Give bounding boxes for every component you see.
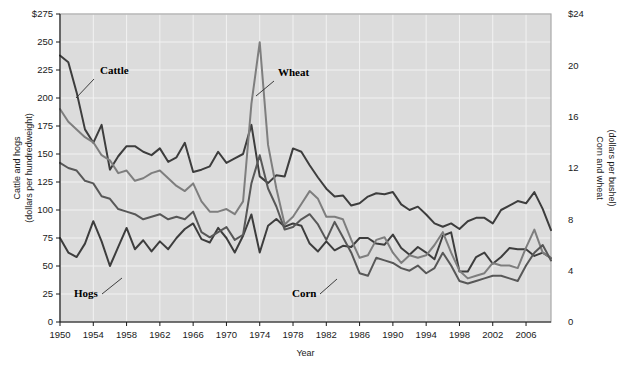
right-axis-tick-label: 16 xyxy=(568,111,579,122)
left-axis-title-line1: Cattle and hogs xyxy=(12,136,22,200)
x-axis-tick-label: 2006 xyxy=(515,329,536,340)
left-axis-tick-label: $275 xyxy=(32,8,53,19)
x-axis-tick-label: 1974 xyxy=(249,329,270,340)
left-axis-tick-label: 25 xyxy=(42,288,53,299)
left-axis-tick-label: 0 xyxy=(48,316,53,327)
x-axis-tick-label: 1998 xyxy=(449,329,470,340)
left-axis-tick-label: 250 xyxy=(37,36,53,47)
x-axis-tick-label: 1966 xyxy=(183,329,204,340)
right-axis-tick-label: 0 xyxy=(568,316,573,327)
x-axis-tick-label: 1962 xyxy=(149,329,170,340)
x-axis-tick-label: 2002 xyxy=(482,329,503,340)
left-axis-title-line2-text: (dollars per hundredweight) xyxy=(24,113,34,223)
right-axis-tick-label: 12 xyxy=(568,162,579,173)
left-axis-tick-label: 100 xyxy=(37,204,53,215)
x-axis-title: Year xyxy=(296,348,314,358)
x-axis-tick-label: 1954 xyxy=(83,329,104,340)
x-axis-tick-label: 1978 xyxy=(282,329,303,340)
annotation-label-hogs: Hogs xyxy=(74,287,99,299)
x-axis-tick-label: 1958 xyxy=(116,329,137,340)
right-axis-tick-label: $24 xyxy=(568,8,584,19)
left-axis-tick-label: 225 xyxy=(37,64,53,75)
right-axis-title-line1: Corn and wheat xyxy=(595,136,605,200)
left-axis-tick-label: 125 xyxy=(37,176,53,187)
annotation-label-corn: Corn xyxy=(292,287,316,299)
x-axis-tick-label: 1986 xyxy=(349,329,370,340)
right-axis-title-line1-text: Corn and wheat xyxy=(595,136,605,200)
right-axis-title-line2: (dollars per bushel) xyxy=(607,129,617,206)
left-axis-tick-label: 150 xyxy=(37,148,53,159)
annotation-label-cattle: Cattle xyxy=(100,64,129,76)
right-axis-tick-label: 20 xyxy=(568,60,579,71)
x-axis-tick-label: 1970 xyxy=(216,329,237,340)
annotation-label-wheat: Wheat xyxy=(278,66,310,78)
x-axis-tick-label: 1990 xyxy=(382,329,403,340)
farm-prices-line-chart: $2752502252001751501251007550250 $242016… xyxy=(0,0,617,369)
x-axis-tick-label: 1994 xyxy=(416,329,437,340)
left-axis-tick-label: 200 xyxy=(37,92,53,103)
left-axis-tick-label: 75 xyxy=(42,232,53,243)
right-axis-tick-label: 8 xyxy=(568,214,573,225)
x-axis-tick-label: 1982 xyxy=(316,329,337,340)
left-axis-title-line1-text: Cattle and hogs xyxy=(12,136,22,200)
right-axis-title-line2-text: (dollars per bushel) xyxy=(607,129,617,206)
x-axis-tick-label: 1950 xyxy=(49,329,70,340)
right-axis-tick-label: 4 xyxy=(568,265,573,276)
left-axis-tick-label: 50 xyxy=(42,260,53,271)
left-axis-title-line2: (dollars per hundredweight) xyxy=(24,113,34,223)
left-axis-tick-label: 175 xyxy=(37,120,53,131)
chart-figure: $2752502252001751501251007550250 $242016… xyxy=(0,0,617,369)
